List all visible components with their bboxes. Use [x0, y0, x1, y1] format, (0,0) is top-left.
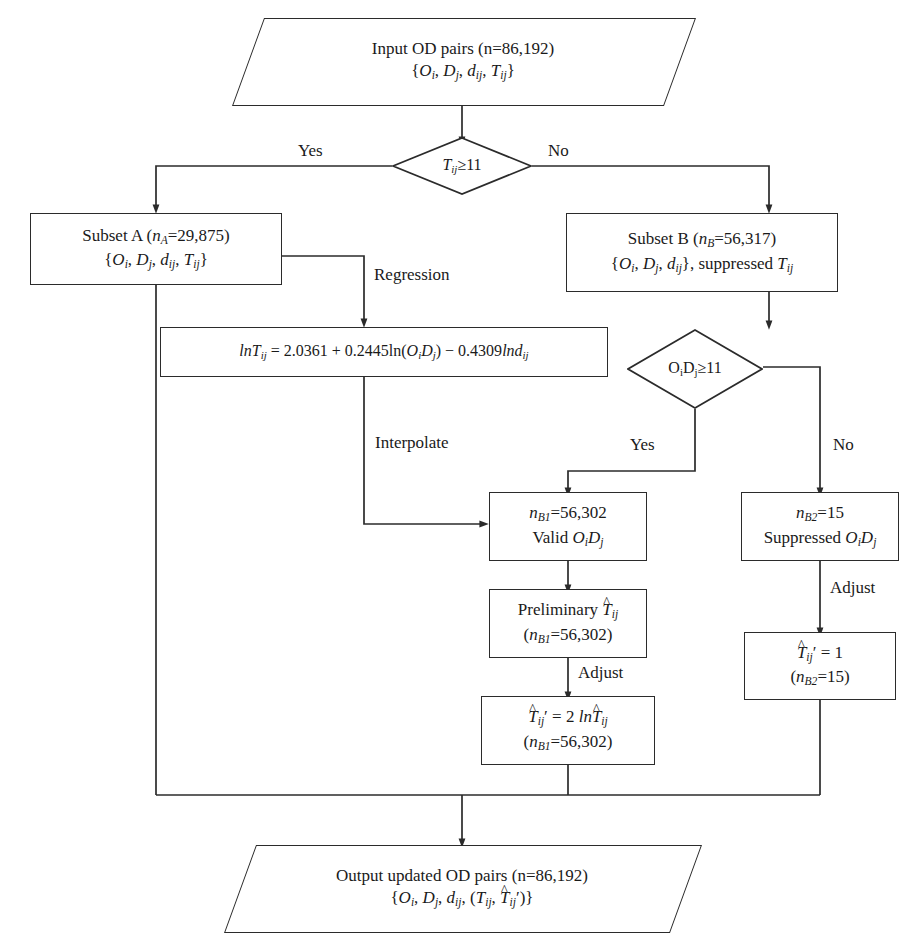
- edge-label-interpolate: Interpolate: [375, 433, 449, 453]
- output-line1: Output updated OD pairs (n=86,192): [336, 865, 588, 887]
- input-line2: {Oi, Dj, dij, Tij}: [372, 60, 554, 84]
- node-decision-tij: Tij≥11: [392, 137, 532, 195]
- node-adjusted-that: ^Tij′ = 2 ln^Tij (nB1=56,302): [481, 696, 655, 765]
- subset-a-line1: Subset A (nA=29,875): [82, 225, 229, 249]
- suppressed-od-line2: Suppressed OiDj: [764, 527, 877, 551]
- adjusted-line1: ^Tij′ = 2 ln^Tij: [528, 706, 608, 730]
- edge-no-od-to-suppressed: [763, 367, 820, 492]
- edge-regression-to-equation: [282, 256, 364, 323]
- adjusted-line2: (nB1=56,302): [524, 731, 613, 755]
- regression-equation-text: lnTij = 2.0361 + 0.2445ln(OiDj) − 0.4309…: [239, 341, 528, 363]
- subset-b-line1: Subset B (nB=56,317): [628, 228, 776, 252]
- preliminary-line1: Preliminary ^Tij: [518, 599, 618, 623]
- node-preliminary-that: Preliminary ^Tij (nB1=56,302): [489, 589, 647, 658]
- edge-label-no-od: No: [833, 435, 854, 455]
- unit-line1: ^Tij′ = 1: [797, 642, 843, 666]
- input-line1: Input OD pairs (n=86,192): [372, 38, 554, 60]
- decision-tij-label: Tij≥11: [442, 155, 481, 177]
- output-line2: {Oi, Dj, dij, (Tij, ^Tij′)}: [336, 887, 588, 911]
- edge-label-adjust-right: Adjust: [830, 578, 875, 598]
- preliminary-line2: (nB1=56,302): [524, 624, 613, 648]
- edge-label-no-top: No: [548, 141, 569, 161]
- suppressed-od-line1: nB2=15: [796, 502, 844, 526]
- node-output: Output updated OD pairs (n=86,192) {Oi, …: [240, 845, 684, 931]
- edge-no-to-subset-b: [532, 166, 769, 209]
- valid-od-line1: nB1=56,302: [529, 502, 607, 526]
- edge-yes-to-subset-a: [156, 166, 392, 209]
- node-regression-equation: lnTij = 2.0361 + 0.2445ln(OiDj) − 0.4309…: [160, 327, 608, 377]
- node-decision-odij: OiDj≥11: [627, 329, 763, 409]
- valid-od-line2: Valid OiDj: [532, 527, 603, 551]
- edge-label-regression: Regression: [374, 265, 450, 285]
- edge-label-adjust-left: Adjust: [578, 663, 623, 683]
- flowchart-canvas: Input OD pairs (n=86,192) {Oi, Dj, dij, …: [0, 0, 924, 941]
- edge-label-yes-od: Yes: [630, 435, 655, 455]
- node-unit-that: ^Tij′ = 1 (nB2=15): [744, 632, 896, 700]
- subset-a-line2: {Oi, Dj, dij, Tij}: [104, 249, 208, 273]
- node-suppressed-od: nB2=15 Suppressed OiDj: [741, 492, 899, 561]
- decision-odij-label: OiDj≥11: [668, 358, 721, 380]
- node-valid-od: nB1=56,302 Valid OiDj: [489, 492, 647, 561]
- node-subset-a: Subset A (nA=29,875) {Oi, Dj, dij, Tij}: [30, 213, 282, 285]
- unit-line2: (nB2=15): [790, 666, 849, 690]
- node-subset-b: Subset B (nB=56,317) {Oi, Dj, dij}, supp…: [566, 213, 838, 292]
- edge-label-yes-top: Yes: [298, 141, 323, 161]
- node-input: Input OD pairs (n=86,192) {Oi, Dj, dij, …: [248, 18, 678, 104]
- subset-b-line2: {Oi, Dj, dij}, suppressed Tij: [611, 253, 794, 277]
